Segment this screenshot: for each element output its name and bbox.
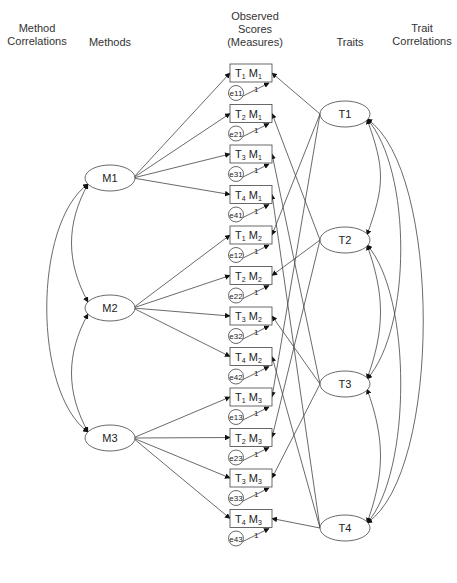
error-e41: e411 <box>229 207 260 223</box>
svg-text:T4 M3: T4 M3 <box>235 513 262 526</box>
error-e11: e111 <box>229 85 260 101</box>
measure-e23: T2 M3 <box>230 429 272 447</box>
svg-text:1: 1 <box>254 409 259 418</box>
svg-text:1: 1 <box>254 207 259 216</box>
measure-e13: T1 M3 <box>230 388 272 406</box>
svg-text:e32: e32 <box>229 332 243 341</box>
error-e21: e211 <box>229 126 260 142</box>
error-e33: e331 <box>229 490 260 506</box>
measure-e11: T1 M1 <box>230 64 272 82</box>
svg-text:T2 M1: T2 M1 <box>235 108 262 121</box>
svg-text:1: 1 <box>254 490 259 499</box>
svg-text:1: 1 <box>254 450 259 459</box>
error-e32: e321 <box>229 328 260 344</box>
svg-text:e42: e42 <box>229 373 243 382</box>
svg-text:1: 1 <box>254 126 259 135</box>
svg-text:e11: e11 <box>230 89 243 98</box>
measure-e21: T2 M1 <box>230 105 272 123</box>
svg-text:1: 1 <box>254 85 259 94</box>
svg-text:T4 M1: T4 M1 <box>235 189 262 202</box>
svg-text:e31: e31 <box>229 170 243 179</box>
error-e13: e131 <box>229 409 260 425</box>
svg-text:T1 M3: T1 M3 <box>235 391 262 404</box>
svg-text:T1: T1 <box>339 108 352 120</box>
error-e23: e231 <box>229 450 260 466</box>
svg-text:T3 M1: T3 M1 <box>235 148 262 161</box>
method-m1: M1 <box>85 165 135 191</box>
svg-text:1: 1 <box>254 288 259 297</box>
svg-text:e23: e23 <box>229 454 243 463</box>
svg-text:T2 M3: T2 M3 <box>235 432 262 445</box>
svg-text:1: 1 <box>254 369 259 378</box>
trait-t3: T3 <box>320 371 370 397</box>
measure-e33: T3 M3 <box>230 469 272 487</box>
svg-text:T2: T2 <box>339 234 352 246</box>
error-e43: e431 <box>229 531 260 547</box>
svg-text:T4: T4 <box>339 522 352 534</box>
svg-text:T3 M2: T3 M2 <box>235 310 262 323</box>
method-m3: M3 <box>85 425 135 451</box>
error-e31: e311 <box>229 166 260 182</box>
svg-text:e13: e13 <box>229 413 243 422</box>
svg-text:M1: M1 <box>102 172 117 184</box>
svg-text:e43: e43 <box>229 535 243 544</box>
error-e42: e421 <box>229 369 260 385</box>
measure-e12: T1 M2 <box>230 226 272 244</box>
svg-text:T4 M2: T4 M2 <box>235 351 262 364</box>
svg-text:e21: e21 <box>229 130 243 139</box>
trait-t2: T2 <box>320 227 370 253</box>
trait-t1: T1 <box>320 101 370 127</box>
svg-text:e12: e12 <box>229 251 243 260</box>
measure-e43: T4 M3 <box>230 510 272 528</box>
measure-e22: T2 M2 <box>230 267 272 285</box>
svg-text:e22: e22 <box>229 292 243 301</box>
svg-text:1: 1 <box>254 247 259 256</box>
method-m2: M2 <box>85 295 135 321</box>
svg-text:M2: M2 <box>102 302 117 314</box>
svg-text:T2 M2: T2 M2 <box>235 270 262 283</box>
svg-text:1: 1 <box>254 166 259 175</box>
svg-text:1: 1 <box>254 531 259 540</box>
svg-text:M3: M3 <box>102 432 117 444</box>
measure-e41: T4 M1 <box>230 186 272 204</box>
svg-text:T1 M1: T1 M1 <box>235 67 262 80</box>
measure-e42: T4 M2 <box>230 348 272 366</box>
svg-text:T3 M3: T3 M3 <box>235 472 262 485</box>
svg-text:1: 1 <box>254 328 259 337</box>
error-e22: e221 <box>229 288 260 304</box>
svg-text:T3: T3 <box>339 378 352 390</box>
mtmm-path-diagram: T1 M1e111T2 M1e211T3 M1e311T4 M1e411T1 M… <box>0 0 457 583</box>
error-e12: e121 <box>229 247 260 263</box>
measure-e31: T3 M1 <box>230 145 272 163</box>
svg-text:e33: e33 <box>229 494 243 503</box>
svg-text:e41: e41 <box>229 211 243 220</box>
svg-text:T1 M2: T1 M2 <box>235 229 262 242</box>
trait-t4: T4 <box>320 515 370 541</box>
measure-e32: T3 M2 <box>230 307 272 325</box>
